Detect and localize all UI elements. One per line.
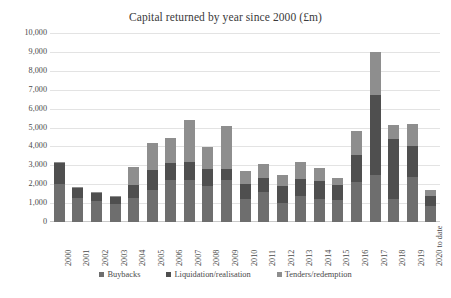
- bar-2019[interactable]: [407, 124, 418, 222]
- bar-2010[interactable]: [240, 171, 251, 222]
- bar-2001[interactable]: [72, 187, 83, 222]
- bar-2007[interactable]: [184, 120, 195, 222]
- bar-segment-liquidation-realisation: [351, 155, 362, 182]
- legend-item-tenders-redemption[interactable]: Tenders/redemption: [277, 270, 352, 279]
- bar-segment-tenders-redemption: [128, 167, 139, 185]
- bar-segment-liquidation-realisation: [240, 184, 251, 199]
- bar-2017[interactable]: [370, 52, 381, 222]
- bar-segment-buybacks: [332, 200, 343, 222]
- bar-2015[interactable]: [332, 178, 343, 222]
- y-axis-tick-label: 4,000: [1, 142, 47, 150]
- bar-segment-tenders-redemption: [258, 164, 269, 177]
- bar-segment-buybacks: [202, 186, 213, 222]
- y-axis-tick-label: 1,000: [1, 199, 47, 207]
- y-axis: 10,0009,0008,0007,0006,0005,0004,0003,00…: [0, 33, 47, 222]
- legend-swatch-icon: [99, 272, 104, 277]
- bar-segment-tenders-redemption: [184, 120, 195, 163]
- bar-segment-buybacks: [184, 180, 195, 222]
- y-axis-tick-label: 10,000: [1, 29, 47, 37]
- bar-2011[interactable]: [258, 164, 269, 222]
- bar-segment-liquidation-realisation: [128, 185, 139, 198]
- bar-segment-buybacks: [147, 190, 158, 222]
- bar-segment-liquidation-realisation: [221, 169, 232, 180]
- y-axis-tick-label: 0: [1, 218, 47, 226]
- bar-segment-liquidation-realisation: [258, 178, 269, 192]
- y-axis-tick-label: 2,000: [1, 180, 47, 188]
- bar-segment-buybacks: [407, 177, 418, 222]
- bar-segment-liquidation-realisation: [370, 95, 381, 174]
- bar-segment-liquidation-realisation: [184, 162, 195, 180]
- y-axis-tick-label: 9,000: [1, 48, 47, 56]
- bar-segment-liquidation-realisation: [54, 163, 65, 184]
- gridline: [50, 52, 440, 53]
- bar-segment-liquidation-realisation: [314, 181, 325, 199]
- bar-segment-tenders-redemption: [332, 178, 343, 186]
- bar-segment-buybacks: [370, 175, 381, 222]
- bar-segment-tenders-redemption: [147, 143, 158, 170]
- bar-segment-tenders-redemption: [314, 168, 325, 181]
- bar-2002[interactable]: [91, 192, 102, 222]
- bar-segment-buybacks: [258, 192, 269, 222]
- gridline: [50, 90, 440, 91]
- legend-swatch-icon: [277, 272, 282, 277]
- bar-2005[interactable]: [147, 143, 158, 222]
- gridline: [50, 71, 440, 72]
- bar-segment-tenders-redemption: [295, 162, 306, 178]
- legend-label: Buybacks: [107, 270, 140, 279]
- bar-segment-buybacks: [128, 198, 139, 222]
- bar-segment-buybacks: [221, 180, 232, 222]
- bar-2020-to-date[interactable]: [425, 190, 436, 222]
- bar-segment-tenders-redemption: [351, 131, 362, 155]
- bar-2008[interactable]: [202, 147, 213, 222]
- gridline: [50, 146, 440, 147]
- bar-segment-buybacks: [351, 182, 362, 222]
- gridline: [50, 165, 440, 166]
- bar-2014[interactable]: [314, 168, 325, 222]
- bar-2018[interactable]: [388, 125, 399, 222]
- bar-segment-buybacks: [110, 204, 121, 222]
- bar-segment-buybacks: [295, 196, 306, 222]
- bar-segment-buybacks: [240, 199, 251, 222]
- bar-2016[interactable]: [351, 131, 362, 222]
- bar-segment-liquidation-realisation: [407, 146, 418, 176]
- bar-2009[interactable]: [221, 126, 232, 222]
- bar-segment-tenders-redemption: [407, 124, 418, 147]
- bar-segment-buybacks: [91, 201, 102, 222]
- gridline: [50, 33, 440, 34]
- bar-segment-liquidation-realisation: [332, 185, 343, 200]
- bar-2012[interactable]: [277, 175, 288, 222]
- y-axis-tick-label: 5,000: [1, 124, 47, 132]
- legend-item-liquidation-realisation[interactable]: Liquidation/realisation: [166, 270, 250, 279]
- legend-label: Tenders/redemption: [285, 270, 352, 279]
- bar-2003[interactable]: [110, 196, 121, 222]
- bar-2013[interactable]: [295, 162, 306, 222]
- bar-segment-buybacks: [425, 206, 436, 222]
- bar-segment-tenders-redemption: [202, 147, 213, 169]
- bar-2006[interactable]: [165, 138, 176, 222]
- bar-segment-tenders-redemption: [240, 171, 251, 184]
- y-axis-tick-label: 7,000: [1, 86, 47, 94]
- y-axis-tick-label: 8,000: [1, 67, 47, 75]
- gridline: [50, 109, 440, 110]
- bar-2000[interactable]: [54, 162, 65, 222]
- bar-segment-liquidation-realisation: [295, 179, 306, 196]
- bar-2004[interactable]: [128, 167, 139, 222]
- chart-title: Capital returned by year since 2000 (£m): [0, 11, 451, 23]
- bar-segment-buybacks: [314, 199, 325, 222]
- legend-item-buybacks[interactable]: Buybacks: [99, 270, 140, 279]
- x-axis: 2000200120022003200420052006200720082009…: [50, 224, 440, 268]
- plot-area: [50, 33, 440, 222]
- bar-segment-liquidation-realisation: [110, 197, 121, 205]
- y-axis-tick-label: 3,000: [1, 161, 47, 169]
- bar-segment-liquidation-realisation: [277, 186, 288, 203]
- chart-legend: BuybacksLiquidation/realisationTenders/r…: [0, 270, 451, 279]
- bar-segment-liquidation-realisation: [91, 193, 102, 202]
- bar-segment-buybacks: [277, 203, 288, 222]
- legend-swatch-icon: [166, 272, 171, 277]
- bar-segment-liquidation-realisation: [147, 170, 158, 190]
- bar-segment-liquidation-realisation: [388, 139, 399, 199]
- legend-label: Liquidation/realisation: [174, 270, 250, 279]
- gridline: [50, 128, 440, 129]
- bar-segment-liquidation-realisation: [202, 169, 213, 186]
- bar-segment-liquidation-realisation: [165, 163, 176, 180]
